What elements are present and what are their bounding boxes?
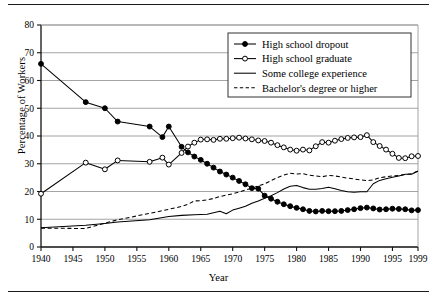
- legend-label: Bachelor's degree or higher: [262, 83, 378, 94]
- x-tick-label: 1955: [127, 254, 146, 264]
- data-point: [326, 209, 331, 214]
- data-point: [243, 182, 248, 187]
- data-point: [390, 206, 395, 211]
- data-point: [237, 179, 242, 184]
- data-point: [166, 162, 171, 167]
- data-point: [102, 106, 107, 111]
- data-point: [403, 207, 408, 212]
- data-point: [179, 150, 184, 155]
- line-chart: 0102030405060708019401945195019551960196…: [0, 0, 437, 302]
- data-point: [269, 140, 274, 145]
- x-tick-label: 1970: [223, 254, 242, 264]
- y-tick-label: 20: [25, 187, 35, 197]
- data-point: [230, 175, 235, 180]
- series-high-school-graduate: [39, 133, 421, 196]
- data-point: [224, 172, 229, 177]
- data-point: [358, 135, 363, 140]
- series-line: [41, 135, 418, 194]
- data-point: [275, 143, 280, 148]
- data-point: [249, 137, 254, 142]
- data-point: [205, 137, 210, 142]
- legend-label: Some college experience: [262, 68, 367, 79]
- data-point: [332, 209, 337, 214]
- data-point: [294, 148, 299, 153]
- legend-label: High school dropout: [262, 39, 348, 50]
- x-tick-label: 1995: [383, 254, 402, 264]
- data-point: [358, 206, 363, 211]
- x-tick-label: 1999: [409, 254, 428, 264]
- data-point: [288, 204, 293, 209]
- series-line: [41, 171, 418, 228]
- data-point: [269, 196, 274, 201]
- data-point: [237, 135, 242, 140]
- data-point: [275, 199, 280, 204]
- data-point: [384, 147, 389, 152]
- data-point: [211, 165, 216, 170]
- x-tick-label: 1985: [319, 254, 338, 264]
- x-axis-label: Year: [0, 272, 437, 283]
- data-point: [409, 208, 414, 213]
- data-point: [403, 156, 408, 161]
- legend-sample-marker: [243, 42, 248, 47]
- data-point: [339, 208, 344, 213]
- data-point: [102, 167, 107, 172]
- data-point: [352, 207, 357, 212]
- data-point: [416, 154, 421, 159]
- data-point: [205, 161, 210, 166]
- data-point: [396, 155, 401, 160]
- data-point: [281, 202, 286, 207]
- data-point: [115, 158, 120, 163]
- data-point: [186, 144, 191, 149]
- y-tick-label: 0: [29, 242, 34, 252]
- data-point: [179, 144, 184, 149]
- data-point: [384, 207, 389, 212]
- data-point: [313, 144, 318, 149]
- data-point: [160, 155, 165, 160]
- data-point: [192, 140, 197, 145]
- data-point: [147, 124, 152, 129]
- data-point: [364, 133, 369, 138]
- data-point: [198, 137, 203, 142]
- data-point: [115, 119, 120, 124]
- data-point: [326, 140, 331, 145]
- data-point: [390, 151, 395, 156]
- data-point: [409, 154, 414, 159]
- x-tick-label: 1940: [32, 254, 51, 264]
- legend-label: High school graduate: [262, 53, 352, 64]
- x-tick-label: 1950: [95, 254, 114, 264]
- data-point: [396, 207, 401, 212]
- x-tick-label: 1945: [63, 254, 82, 264]
- figure-container: 0102030405060708019401945195019551960196…: [0, 0, 437, 302]
- legend-sample-marker: [243, 56, 248, 61]
- data-point: [339, 137, 344, 142]
- x-tick-label: 1980: [287, 254, 306, 264]
- x-tick-label: 1965: [191, 254, 210, 264]
- data-point: [160, 135, 165, 140]
- data-point: [224, 136, 229, 141]
- data-point: [352, 135, 357, 140]
- data-point: [371, 140, 376, 145]
- data-point: [198, 157, 203, 162]
- data-point: [371, 206, 376, 211]
- series-bachelor-s-degree-or-higher: [41, 171, 418, 228]
- data-point: [313, 209, 318, 214]
- data-point: [281, 145, 286, 150]
- data-point: [294, 205, 299, 210]
- data-point: [217, 136, 222, 141]
- data-point: [307, 208, 312, 213]
- data-point: [256, 138, 261, 143]
- data-point: [301, 207, 306, 212]
- data-point: [186, 150, 191, 155]
- data-point: [416, 208, 421, 213]
- data-point: [288, 147, 293, 152]
- data-point: [320, 208, 325, 213]
- data-point: [301, 147, 306, 152]
- data-point: [307, 148, 312, 153]
- y-tick-label: 10: [25, 215, 35, 225]
- y-axis-label: Percentage of Workers: [16, 41, 27, 171]
- data-point: [377, 144, 382, 149]
- x-tick-label: 1960: [159, 254, 178, 264]
- data-point: [345, 135, 350, 140]
- data-point: [192, 154, 197, 159]
- data-point: [83, 160, 88, 165]
